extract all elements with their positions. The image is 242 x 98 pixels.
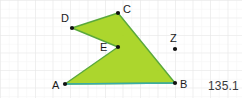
measurement-value: 135.1	[208, 79, 239, 93]
vertex-dot-c[interactable]	[116, 11, 120, 15]
vertex-label-b: B	[180, 79, 187, 90]
vertex-dot-e[interactable]	[116, 45, 120, 49]
free-point-label-z: Z	[170, 33, 177, 44]
figure-layer	[0, 0, 242, 98]
vertex-label-d: D	[61, 13, 69, 24]
segment-ab[interactable]	[65, 83, 175, 84]
vertex-label-a: A	[52, 80, 59, 91]
vertex-dot-b[interactable]	[173, 81, 177, 85]
geometry-figure-canvas[interactable]: A E D C B Z 135.1	[0, 0, 242, 98]
vertex-label-e: E	[100, 42, 107, 53]
polygon-abcde[interactable]	[65, 13, 175, 84]
vertex-dot-d[interactable]	[70, 26, 74, 30]
vertex-dot-a[interactable]	[63, 82, 67, 86]
free-point-dot-z[interactable]	[173, 47, 177, 51]
vertex-label-c: C	[123, 4, 131, 15]
